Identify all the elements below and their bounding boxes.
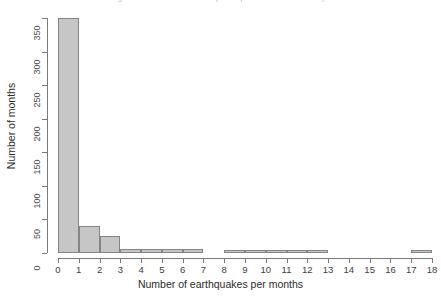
x-axis-tick <box>183 258 184 263</box>
x-axis-title: Number of earthquakes per months <box>0 278 441 290</box>
x-axis-tick <box>390 258 391 263</box>
x-axis-tick <box>287 258 288 263</box>
x-axis-tick <box>79 258 80 263</box>
x-axis-tick <box>141 258 142 263</box>
x-axis-title-label: Number of earthquakes per months <box>138 278 303 290</box>
histogram-bar <box>141 249 162 253</box>
x-axis-tick-label: 14 <box>339 264 359 275</box>
y-axis-title-label: Number of months <box>5 83 17 169</box>
y-axis-tick <box>42 219 47 220</box>
y-axis-tick <box>42 85 47 86</box>
x-axis-tick <box>203 258 204 263</box>
histogram-bar <box>411 250 432 253</box>
x-axis-tick <box>370 258 371 263</box>
x-axis-tick <box>432 258 433 263</box>
x-axis-tick <box>100 258 101 263</box>
y-axis-tick-label: 50 <box>32 219 42 249</box>
x-axis-tick-label: 15 <box>360 264 380 275</box>
x-axis-tick-label: 0 <box>48 264 68 275</box>
y-axis-tick <box>42 119 47 120</box>
x-axis-tick-label: 13 <box>318 264 338 275</box>
histogram-bar <box>224 250 245 253</box>
x-axis-tick <box>58 258 59 263</box>
x-axis-tick-label: 18 <box>422 264 441 275</box>
plot-area: 050100150200250300350 012345678910111213… <box>0 0 441 300</box>
y-axis-tick-label: 350 <box>32 18 42 48</box>
x-axis-tick-label: 17 <box>401 264 421 275</box>
histogram-chart: Histogram of the number of earthquakes p… <box>0 0 441 300</box>
histogram-bar <box>183 249 204 253</box>
x-axis-tick <box>224 258 225 263</box>
x-axis-tick <box>266 258 267 263</box>
x-axis-tick <box>162 258 163 263</box>
x-axis-tick-label: 6 <box>173 264 193 275</box>
x-axis-tick-label: 3 <box>110 264 130 275</box>
histogram-bar <box>58 18 79 253</box>
y-axis-title: Number of months <box>4 0 18 252</box>
y-axis-tick <box>42 18 47 19</box>
x-axis-tick-label: 1 <box>69 264 89 275</box>
y-axis-tick <box>42 186 47 187</box>
x-axis-tick-label: 4 <box>131 264 151 275</box>
x-axis-tick <box>349 258 350 263</box>
x-axis-tick-label: 9 <box>235 264 255 275</box>
histogram-bar <box>120 249 141 253</box>
x-axis-tick-label: 7 <box>193 264 213 275</box>
y-axis-tick <box>42 253 47 254</box>
histogram-bar <box>307 250 328 253</box>
y-axis-tick-label: 100 <box>32 186 42 216</box>
y-axis-tick-label: 150 <box>32 152 42 182</box>
x-axis-tick <box>411 258 412 263</box>
y-axis-tick-label: 200 <box>32 119 42 149</box>
y-axis-tick-label: 300 <box>32 52 42 82</box>
x-axis-tick <box>328 258 329 263</box>
x-axis-tick-label: 11 <box>277 264 297 275</box>
y-axis-tick <box>42 152 47 153</box>
y-axis-tick <box>42 52 47 53</box>
histogram-bar <box>100 236 121 253</box>
x-axis-tick <box>307 258 308 263</box>
histogram-bar <box>79 226 100 253</box>
x-axis-tick <box>245 258 246 263</box>
x-axis-tick-label: 12 <box>297 264 317 275</box>
x-axis-tick-label: 8 <box>214 264 234 275</box>
x-axis-tick-label: 2 <box>90 264 110 275</box>
x-axis-tick <box>120 258 121 263</box>
x-axis-tick-label: 10 <box>256 264 276 275</box>
histogram-bar <box>162 249 183 253</box>
x-axis-tick-label: 5 <box>152 264 172 275</box>
y-axis-tick-label: 250 <box>32 85 42 115</box>
histogram-bar <box>287 250 308 253</box>
histogram-bar <box>245 250 266 253</box>
histogram-bar <box>266 250 287 253</box>
x-axis-tick-label: 16 <box>380 264 400 275</box>
y-axis-line <box>47 18 48 253</box>
